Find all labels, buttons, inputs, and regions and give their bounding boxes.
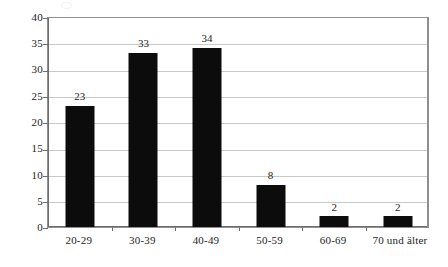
bar-60-69[interactable]: [320, 216, 349, 227]
y-axis-label-15: 15: [15, 143, 43, 154]
y-axis-label-5: 5: [15, 196, 43, 207]
bar-40-49[interactable]: [192, 48, 221, 227]
bar-slot-50-59: 8: [239, 18, 303, 227]
x-tick-5: [366, 227, 367, 231]
bar-20-29[interactable]: [65, 106, 94, 227]
x-axis-label-50-59: 50-59: [238, 234, 302, 246]
x-axis-label-70-und-aelter: 70 und älter: [365, 234, 435, 246]
x-axis-label-30-39: 30-39: [111, 234, 175, 246]
y-axis-label-30: 30: [15, 64, 43, 75]
x-axis-label-60-69: 60-69: [301, 234, 365, 246]
bar-value-30-39: 33: [138, 38, 149, 49]
bar-value-20-29: 23: [74, 91, 85, 102]
x-axis-label-40-49: 40-49: [174, 234, 238, 246]
bar-slot-30-39: 33: [112, 18, 176, 227]
bar-slot-70-und-aelter: 2: [366, 18, 430, 227]
bar-70-und-aelter[interactable]: [383, 216, 412, 227]
bar-slot-40-49: 34: [175, 18, 239, 227]
y-axis-label-0: 0: [15, 222, 43, 233]
bar-value-40-49: 34: [201, 33, 212, 44]
y-axis-label-35: 35: [15, 38, 43, 49]
bar-slot-60-69: 2: [302, 18, 366, 227]
x-tick-3: [239, 227, 240, 231]
plot-area: 23 33 34 8 2: [47, 17, 429, 228]
bars-layer: 23 33 34 8 2: [48, 18, 427, 227]
bar-slot-20-29: 23: [48, 18, 112, 227]
bar-value-60-69: 2: [331, 202, 337, 213]
scan-artifact: [61, 2, 72, 9]
x-tick-4: [302, 227, 303, 231]
y-axis-label-40: 40: [15, 12, 43, 23]
x-tick-1: [112, 227, 113, 231]
bar-chart: 40 35 30 25 20 15 10 5 0 23: [0, 0, 448, 267]
bar-value-50-59: 8: [268, 170, 274, 181]
bar-50-59[interactable]: [256, 185, 285, 227]
x-axis-label-20-29: 20-29: [47, 234, 111, 246]
y-axis-label-20: 20: [15, 117, 43, 128]
bar-value-70-und-aelter: 2: [395, 202, 401, 213]
x-tick-2: [175, 227, 176, 231]
bar-30-39[interactable]: [129, 53, 158, 227]
y-axis-label-10: 10: [15, 170, 43, 181]
y-tick-0: [43, 228, 48, 229]
y-axis-label-25: 25: [15, 91, 43, 102]
